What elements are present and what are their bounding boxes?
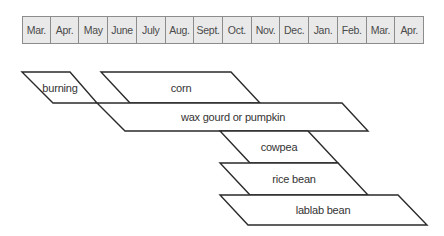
- crop-label: burning: [42, 82, 77, 94]
- crop-label: rice bean: [272, 173, 315, 185]
- crop-label: lablab bean: [296, 204, 351, 216]
- crop-label: corn: [171, 82, 192, 94]
- crop-label: cowpea: [261, 141, 298, 153]
- crop-label: wax gourd or pumpkin: [181, 111, 285, 123]
- cropping-calendar-diagram: Mar.Apr.MayJuneJulyAug.Sept.Oct.Nov.Dec.…: [0, 0, 444, 236]
